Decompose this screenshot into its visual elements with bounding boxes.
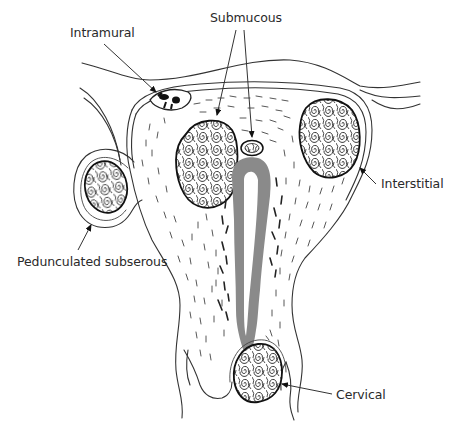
intramural-fibroid <box>150 90 191 110</box>
cervical-fibroid <box>230 340 286 402</box>
label-intramural: Intramural <box>70 27 135 40</box>
uterine-cavity <box>232 157 271 356</box>
interstitial-fibroid <box>300 99 360 177</box>
submucous-fibroid-large <box>176 121 238 208</box>
label-interstitial: Interstitial <box>381 178 444 191</box>
uterus-illustration <box>0 0 449 436</box>
pedunculated-subserous-fibroid <box>74 149 142 227</box>
label-pedunculated-subserous: Pedunculated subserous <box>17 256 167 269</box>
submucous-fibroid-small <box>241 141 263 156</box>
label-arrows <box>78 30 376 394</box>
label-cervical: Cervical <box>336 389 386 402</box>
label-submucous: Submucous <box>210 12 282 25</box>
uterine-fibroid-diagram: Intramural Submucous Interstitial Pedunc… <box>0 0 449 436</box>
